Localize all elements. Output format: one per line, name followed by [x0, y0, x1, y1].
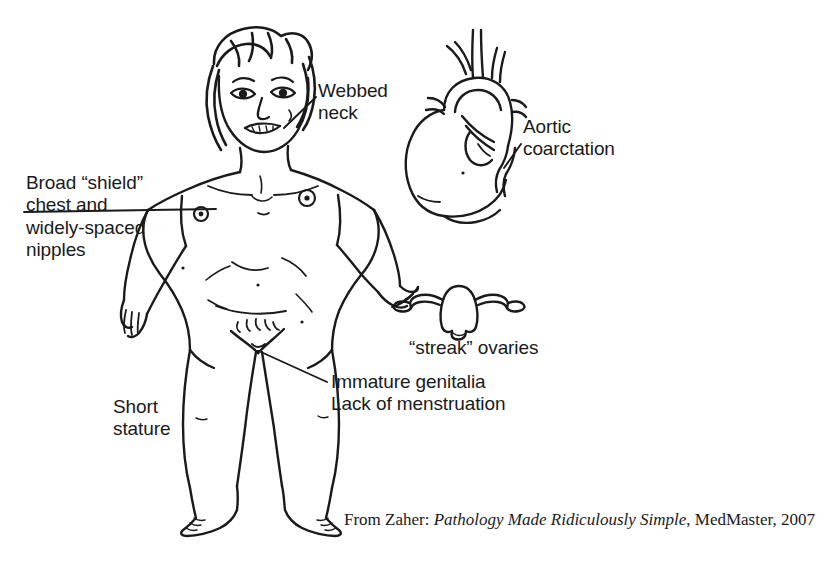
label-webbed-neck: Webbed neck	[318, 80, 388, 125]
leader-immature-genitalia	[261, 352, 327, 382]
hair	[207, 27, 315, 150]
figure-illustration	[0, 0, 836, 571]
label-streak-ovaries: “streak” ovaries	[409, 337, 538, 359]
label-aortic-coarctation: Aortic coarctation	[523, 116, 615, 161]
legs	[183, 350, 339, 488]
face	[219, 76, 309, 152]
label-broad-shield-chest: Broad “shield” chest and widely-spaced n…	[26, 172, 145, 262]
attribution-suffix: , MedMaster, 2007	[686, 510, 815, 529]
turner-syndrome-figure: Webbed neck Broad “shield” chest and wid…	[0, 0, 836, 571]
attribution-line: From Zaher: Pathology Made Ridiculously …	[344, 510, 815, 530]
torso	[143, 195, 378, 350]
label-immature-genitalia: Immature genitalia Lack of menstruation	[331, 371, 505, 416]
attribution-prefix: From Zaher:	[344, 510, 434, 529]
heart-diagram	[406, 30, 526, 223]
nipples	[194, 190, 315, 221]
pelvis	[190, 319, 332, 368]
feet	[181, 486, 341, 536]
attribution-work-title: Pathology Made Ridiculously Simple	[434, 510, 687, 529]
label-short-stature: Short stature	[113, 396, 170, 441]
